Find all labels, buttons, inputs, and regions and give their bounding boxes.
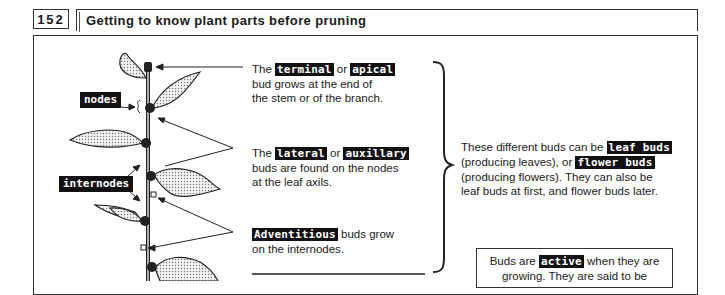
- lateral-bud-2: [141, 138, 151, 148]
- lateral-bud-5: [147, 262, 157, 272]
- term-terminal: terminal: [275, 63, 334, 76]
- term-adventitious: Adventitious: [252, 228, 338, 241]
- bud-types-summary: These different buds can be leaf buds (p…: [461, 140, 672, 198]
- adventitious-bud-1: [151, 192, 156, 197]
- internodes-label: internodes: [59, 176, 133, 192]
- lateral-bud-3: [146, 171, 156, 181]
- terminal-bud: [144, 62, 152, 72]
- terminal-bud-description: The terminal or apical bud grows at the …: [252, 62, 395, 105]
- lateral-bud-4: [140, 216, 150, 226]
- term-lateral: lateral: [275, 147, 327, 160]
- adventitious-bud-2: [141, 245, 146, 250]
- lateral-bud-1: [145, 103, 155, 113]
- term-auxillary: auxillary: [343, 147, 408, 160]
- term-active: active: [539, 255, 584, 268]
- term-apical: apical: [350, 63, 395, 76]
- adventitious-bud-description: Adventitious buds grow on the internodes…: [252, 227, 394, 256]
- active-buds-note: Buds are active when they are growing. T…: [476, 248, 673, 288]
- term-leaf-buds: leaf buds: [607, 141, 672, 154]
- term-flower-buds: flower buds: [575, 156, 654, 169]
- grouping-brace: [433, 62, 452, 272]
- nodes-label: nodes: [80, 92, 121, 108]
- lateral-bud-description: The lateral or auxillary buds are found …: [252, 146, 409, 189]
